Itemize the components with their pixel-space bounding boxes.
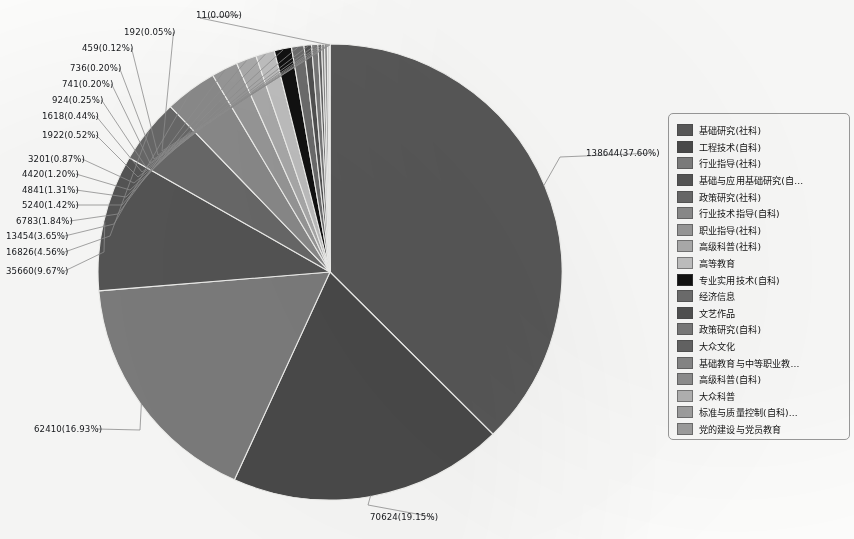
legend-item[interactable]: 职业指导(社科) xyxy=(677,222,843,239)
legend-item-label: 高级科普(社科) xyxy=(699,239,761,253)
slice-value-label: 11(0.00%) xyxy=(196,10,242,20)
legend-swatch-icon xyxy=(677,191,693,203)
legend-swatch-icon xyxy=(677,207,693,219)
legend-swatch-icon xyxy=(677,274,693,286)
legend-item-label: 专业实用技术(自科) xyxy=(699,273,780,287)
legend-item[interactable]: 高级科普(社科) xyxy=(677,238,843,255)
legend-swatch-icon xyxy=(677,390,693,402)
legend-swatch-icon xyxy=(677,174,693,186)
legend-swatch-icon xyxy=(677,141,693,153)
legend-item-label: 行业指导(社科) xyxy=(699,156,761,170)
legend-swatch-icon xyxy=(677,340,693,352)
leader-line xyxy=(97,403,141,430)
slice-value-label: 70624(19.15%) xyxy=(370,512,438,522)
legend-item-label: 政策研究(社科) xyxy=(699,190,761,204)
legend-swatch-icon xyxy=(677,224,693,236)
legend-item-label: 标准与质量控制(自科)... xyxy=(699,405,798,419)
legend-swatch-icon xyxy=(677,406,693,418)
slice-value-label: 459(0.12%) xyxy=(82,43,133,53)
legend-swatch-icon xyxy=(677,323,693,335)
legend-swatch-icon xyxy=(677,157,693,169)
slice-value-label: 6783(1.84%) xyxy=(16,216,73,226)
legend-swatch-icon xyxy=(677,290,693,302)
slice-value-label: 5240(1.42%) xyxy=(22,200,79,210)
legend-swatch-icon xyxy=(677,240,693,252)
legend-item-label: 大众科普 xyxy=(699,389,736,403)
legend-item-label: 大众文化 xyxy=(699,339,736,353)
slice-value-label: 1618(0.44%) xyxy=(42,111,99,121)
slice-value-label: 192(0.05%) xyxy=(124,27,175,37)
legend-item[interactable]: 基础教育与中等职业教... xyxy=(677,354,843,371)
legend-item-label: 行业技术指导(自科) xyxy=(699,206,780,220)
legend-item[interactable]: 政策研究(社科) xyxy=(677,188,843,205)
legend-item-label: 职业指导(社科) xyxy=(699,223,761,237)
legend-item[interactable]: 工程技术(自科) xyxy=(677,139,843,156)
legend-item-label: 工程技术(自科) xyxy=(699,140,761,154)
legend-item[interactable]: 党的建设与党员教育 xyxy=(677,421,843,438)
legend-item-label: 党的建设与党员教育 xyxy=(699,422,781,436)
slice-value-label: 35660(9.67%) xyxy=(6,266,69,276)
legend-item[interactable]: 行业指导(社科) xyxy=(677,155,843,172)
slice-value-label: 1922(0.52%) xyxy=(42,130,99,140)
legend-swatch-icon xyxy=(677,124,693,136)
slice-value-label: 16826(4.56%) xyxy=(6,247,69,257)
legend-item-label: 高等教育 xyxy=(699,256,736,270)
legend-item[interactable]: 基础与应用基础研究(自... xyxy=(677,172,843,189)
legend-swatch-icon xyxy=(677,357,693,369)
slice-value-label: 924(0.25%) xyxy=(52,95,103,105)
chart-legend: 基础研究(社科)工程技术(自科)行业指导(社科)基础与应用基础研究(自...政策… xyxy=(668,113,850,440)
legend-item[interactable]: 标准与质量控制(自科)... xyxy=(677,404,843,421)
legend-item[interactable]: 政策研究(自科) xyxy=(677,321,843,338)
legend-item[interactable]: 高级科普(自科) xyxy=(677,371,843,388)
legend-item[interactable]: 行业技术指导(自科) xyxy=(677,205,843,222)
legend-swatch-icon xyxy=(677,373,693,385)
legend-item-label: 经济信息 xyxy=(699,289,736,303)
slice-value-label: 3201(0.87%) xyxy=(28,154,85,164)
legend-swatch-icon xyxy=(677,307,693,319)
slice-value-label: 62410(16.93%) xyxy=(34,424,102,434)
legend-item-label: 基础与应用基础研究(自... xyxy=(699,173,803,187)
legend-item[interactable]: 大众科普 xyxy=(677,388,843,405)
slice-value-label: 138644(37.60%) xyxy=(586,148,660,158)
legend-item[interactable]: 高等教育 xyxy=(677,255,843,272)
slice-value-label: 13454(3.65%) xyxy=(6,231,69,241)
slice-value-label: 4841(1.31%) xyxy=(22,185,79,195)
legend-item[interactable]: 大众文化 xyxy=(677,338,843,355)
legend-item-label: 基础研究(社科) xyxy=(699,123,761,137)
legend-item[interactable]: 文艺作品 xyxy=(677,305,843,322)
legend-item-label: 政策研究(自科) xyxy=(699,322,761,336)
slice-value-label: 736(0.20%) xyxy=(70,63,121,73)
legend-item[interactable]: 经济信息 xyxy=(677,288,843,305)
legend-item[interactable]: 基础研究(社科) xyxy=(677,122,843,139)
legend-item-label: 文艺作品 xyxy=(699,306,736,320)
legend-swatch-icon xyxy=(677,257,693,269)
legend-item[interactable]: 专业实用技术(自科) xyxy=(677,271,843,288)
slice-value-label: 741(0.20%) xyxy=(62,79,113,89)
legend-item-label: 高级科普(自科) xyxy=(699,372,761,386)
legend-swatch-icon xyxy=(677,423,693,435)
slice-value-label: 4420(1.20%) xyxy=(22,169,79,179)
legend-item-label: 基础教育与中等职业教... xyxy=(699,356,800,370)
